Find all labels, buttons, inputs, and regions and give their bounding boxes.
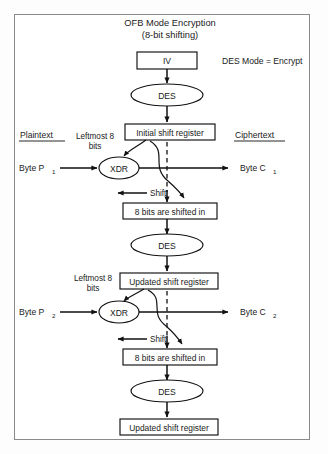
- xor-label-1: XDR: [110, 164, 128, 174]
- des-mode-note: DES Mode = Encrypt: [222, 56, 303, 66]
- byte-c2-label: Byte C: [240, 307, 266, 317]
- figure-title-line2: (8-bit shifting): [142, 30, 198, 40]
- ciphertext-heading: Ciphertext: [235, 130, 275, 140]
- byte-c2-index: 2: [273, 312, 277, 319]
- bits-shifted-in-label-1: 8 bits are shifted in: [135, 207, 206, 217]
- des-label-1: DES: [158, 91, 176, 101]
- leftmost-bits-label-2-line2: bits: [87, 284, 100, 293]
- arrow-register-to-xor-1: [124, 140, 146, 156]
- plaintext-heading: Plaintext: [20, 130, 54, 140]
- shift-label-2: Shift: [150, 335, 167, 344]
- updated-shift-register-label-2: Updated shift register: [129, 423, 209, 433]
- byte-p1-index: 1: [52, 168, 56, 175]
- leftmost-bits-label-2-line1: Leftmost 8: [74, 274, 113, 283]
- initial-shift-register-label: Initial shift register: [136, 128, 204, 138]
- figure-container: OFB Mode Encryption (8-bit shifting) DES…: [0, 0, 328, 454]
- ofb-mode-encryption-diagram: OFB Mode Encryption (8-bit shifting) DES…: [0, 0, 328, 454]
- bits-shifted-in-label-2: 8 bits are shifted in: [135, 353, 206, 363]
- des-label-3: DES: [158, 387, 176, 397]
- iv-label: IV: [163, 56, 171, 66]
- byte-c1-index: 1: [273, 168, 277, 175]
- figure-title-line1: OFB Mode Encryption: [124, 18, 215, 28]
- arrow-register-to-xor-2: [124, 289, 144, 301]
- des-label-2: DES: [158, 241, 176, 251]
- leftmost-bits-label-1-line2: bits: [89, 142, 102, 151]
- updated-shift-register-label-1: Updated shift register: [129, 277, 209, 287]
- byte-p1-label: Byte P: [19, 163, 45, 173]
- leftmost-bits-label-1-line1: Leftmost 8: [76, 132, 115, 141]
- shift-label-1: Shift: [150, 189, 167, 198]
- xor-label-2: XDR: [110, 308, 128, 318]
- byte-c1-label: Byte C: [240, 163, 266, 173]
- byte-p2-label: Byte P: [19, 307, 45, 317]
- byte-p2-index: 2: [52, 312, 56, 319]
